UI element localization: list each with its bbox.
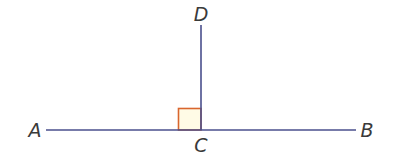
point-label-d: D [194, 3, 209, 25]
point-label-a: A [27, 119, 42, 141]
perpendicular-lines-diagram: D C A B [0, 0, 394, 165]
point-label-b: B [360, 119, 373, 141]
point-label-c: C [194, 134, 208, 156]
right-angle-marker [179, 109, 202, 131]
